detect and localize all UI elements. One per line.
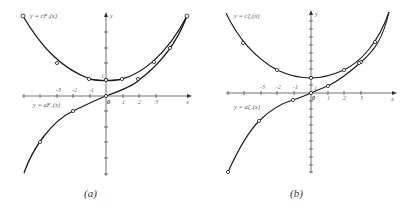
panel-b: -3 -2 -1 0 1 2 3 1 x y <box>226 10 397 174</box>
panel-b-xtick-0: 0 <box>312 95 315 101</box>
panel-b-xtick-3: 3 <box>359 95 363 101</box>
panel-a-y-axis-label: y <box>109 12 113 19</box>
panel-a-label-lower: y = aF₁(x) <box>33 101 60 108</box>
panel-a-caption: (a) <box>84 187 97 199</box>
panel-b-xtick-1: 1 <box>327 95 330 101</box>
panel-a: -3 -2 -1 0 1 2 3 1 x y <box>21 12 192 176</box>
panel-a-xtick-2: 2 <box>138 99 141 105</box>
panel-a-xtick-3: 3 <box>154 99 158 105</box>
panel-b-y-axis-label: y <box>314 10 318 17</box>
panel-a-x-axis-label: x <box>185 98 189 105</box>
panel-b-xtick-neg3: -3 <box>260 84 265 90</box>
panel-b-xtick-neg1: -1 <box>293 84 298 90</box>
panel-b-y-arrow-icon <box>309 10 313 15</box>
panel-b-caption: (b) <box>290 187 303 199</box>
panel-a-markers <box>21 14 189 144</box>
panel-a-xtick-neg3: -3 <box>56 87 61 93</box>
panel-a-y-arrow-icon <box>104 12 108 17</box>
panel-a-xtick-neg2: -2 <box>72 87 77 93</box>
panel-b-curve-azeta1 <box>228 12 389 172</box>
panel-a-xtick-0: 0 <box>107 99 110 105</box>
panel-a-label-upper: y = cF₁(x) <box>30 12 57 19</box>
panel-b-label-lower: y = aζ₁(x) <box>234 103 260 110</box>
panel-b-label-upper: y = cζ₁(x) <box>234 12 260 19</box>
panel-b-curve-czeta1 <box>226 12 389 78</box>
panel-b-xtick-neg2: -2 <box>276 84 281 90</box>
panel-b-x-axis-label: x <box>390 95 394 102</box>
panel-a-xtick-1: 1 <box>122 99 125 105</box>
panel-a-ytick-1: 1 <box>101 73 104 79</box>
figure-canvas: -3 -2 -1 0 1 2 3 1 x y <box>0 0 411 211</box>
panel-b-xtick-2: 2 <box>343 95 346 101</box>
panel-a-xtick-neg1: -1 <box>89 87 94 93</box>
